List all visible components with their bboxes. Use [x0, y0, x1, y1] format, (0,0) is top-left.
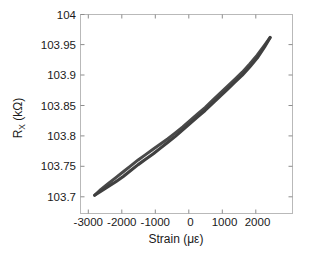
y-tick-label: 103.85 [41, 100, 76, 112]
y-tick-label: 103.8 [47, 130, 76, 142]
x-tick-label: -1000 [141, 216, 170, 228]
x-tick-label: 0 [187, 216, 193, 228]
y-tick-label: 103.7 [47, 191, 76, 203]
x-axis-title: Strain (με) [149, 232, 204, 246]
y-tick-label: 103.95 [41, 39, 76, 51]
y-axis-title-unit: (kΩ) [11, 98, 25, 124]
y-tick-label: 104 [57, 9, 77, 21]
y-axis-title-base: R [11, 129, 25, 138]
x-tick-label: 2000 [245, 216, 271, 228]
y-axis-title: RX (kΩ) [11, 98, 27, 139]
chart-canvas: 104 103.95 103.9 103.85 103.8 103.75 103… [0, 0, 309, 263]
x-tick-label: 1000 [212, 216, 238, 228]
y-tick-label: 103.75 [41, 160, 76, 172]
y-tick-label: 103.9 [47, 69, 76, 81]
x-tick-label: -2000 [107, 216, 136, 228]
chart-figure: 104 103.95 103.9 103.85 103.8 103.75 103… [0, 0, 309, 263]
svg-text:RX (kΩ): RX (kΩ) [11, 98, 27, 139]
x-tick-label: -3000 [74, 216, 103, 228]
